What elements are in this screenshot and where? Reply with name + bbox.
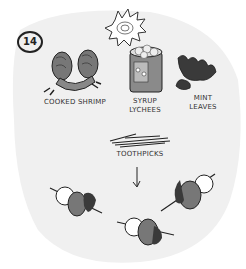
- mint-leaves-label-line1: MINT: [178, 94, 228, 102]
- mint-leaves-label-line2: LEAVES: [178, 103, 228, 111]
- syrup-lychees-label-line2: LYCHEES: [120, 106, 170, 114]
- lychee-can-icon: [130, 45, 162, 92]
- toothpicks-label: TOOTHPICKS: [105, 150, 175, 158]
- cooked-shrimp-label: COOKED SHRIMP: [40, 98, 110, 106]
- syrup-lychees-label-line1: SYRUP: [120, 97, 170, 105]
- step-number-badge: 14: [17, 31, 43, 53]
